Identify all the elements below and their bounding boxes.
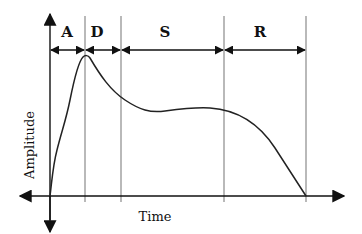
adsr-diagram: A D S R Amplitude Time	[0, 0, 362, 234]
y-axis-label: Amplitude	[22, 111, 37, 180]
x-axis-label: Time	[139, 209, 172, 224]
phase-label-sustain: S	[160, 23, 171, 41]
envelope-curve	[50, 56, 306, 196]
phase-dividers	[85, 16, 306, 202]
phase-label-release: R	[254, 23, 267, 41]
phase-label-decay: D	[90, 23, 103, 41]
phase-label-attack: A	[60, 23, 73, 41]
